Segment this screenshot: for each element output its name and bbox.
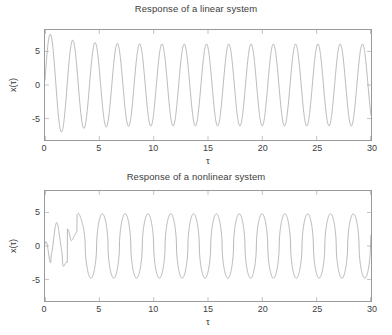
y-tick-label: 0 — [35, 80, 40, 90]
data-line-linear — [45, 34, 371, 132]
x-tick-label: 25 — [312, 304, 322, 314]
x-tick-label: 10 — [148, 304, 158, 314]
subplot-nonlinear-system: Response of a nonlinear system x(τ) -505… — [0, 168, 392, 335]
plot-svg-linear — [45, 30, 371, 140]
tick-marks-nonlinear — [45, 191, 371, 301]
x-axis-label-linear: τ — [44, 155, 372, 166]
y-tick-label: 0 — [35, 241, 40, 251]
chart-title-nonlinear: Response of a nonlinear system — [0, 171, 392, 182]
plot-area-nonlinear — [44, 190, 372, 302]
x-tick-label: 15 — [203, 304, 213, 314]
x-tick-label: 20 — [258, 143, 268, 153]
x-tick-label: 0 — [41, 304, 46, 314]
y-tick-label: -5 — [32, 275, 40, 285]
x-tick-label: 20 — [258, 304, 268, 314]
plot-svg-nonlinear — [45, 191, 371, 301]
x-tick-label: 5 — [96, 304, 101, 314]
x-tick-label: 10 — [148, 143, 158, 153]
y-tick-label: 5 — [35, 207, 40, 217]
x-axis-label-nonlinear: τ — [44, 316, 372, 327]
y-tick-layer-nonlinear: -505 — [0, 190, 40, 302]
x-tick-label: 5 — [96, 143, 101, 153]
x-tick-label: 15 — [203, 143, 213, 153]
y-tick-layer-linear: -505 — [0, 29, 40, 141]
x-tick-label: 25 — [312, 143, 322, 153]
x-tick-label: 30 — [367, 143, 377, 153]
y-tick-label: -5 — [32, 114, 40, 124]
plot-area-linear — [44, 29, 372, 141]
data-line-nonlinear — [45, 213, 371, 278]
chart-title-linear: Response of a linear system — [0, 3, 392, 14]
subplot-linear-system: Response of a linear system x(τ) -505 05… — [0, 0, 392, 167]
y-tick-label: 5 — [35, 46, 40, 56]
figure-canvas: Response of a linear system x(τ) -505 05… — [0, 0, 392, 335]
x-tick-label: 0 — [41, 143, 46, 153]
x-tick-label: 30 — [367, 304, 377, 314]
